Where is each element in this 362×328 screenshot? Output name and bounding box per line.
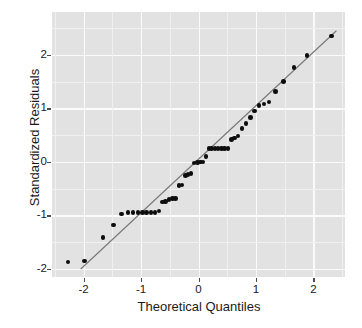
x-tick-label: -1 [121, 283, 161, 295]
data-point [281, 79, 286, 84]
data-point [257, 103, 262, 108]
x-tick-mark [313, 278, 314, 282]
data-point [248, 115, 253, 120]
y-tick-label: -2 [7, 262, 47, 274]
x-tick-label: 2 [293, 283, 333, 295]
y-tick-mark [47, 108, 51, 109]
x-tick-label: 0 [179, 283, 219, 295]
data-point [204, 154, 209, 159]
y-tick-mark [47, 162, 51, 163]
data-point [292, 65, 297, 70]
data-point [173, 196, 178, 201]
y-tick-label: -1 [7, 208, 47, 220]
x-tick-mark [84, 278, 85, 282]
data-point [126, 210, 131, 215]
x-tick-label: 1 [236, 283, 276, 295]
x-tick-mark [199, 278, 200, 282]
data-point [305, 53, 310, 58]
data-point [226, 146, 231, 151]
plot-panel [52, 12, 345, 277]
data-point [111, 223, 116, 228]
x-tick-label: -2 [64, 283, 104, 295]
data-point [273, 89, 278, 94]
x-tick-mark [256, 278, 257, 282]
y-tick-mark [47, 55, 51, 56]
reference-line [52, 12, 345, 277]
data-point [101, 235, 106, 240]
y-tick-label: 0 [7, 155, 47, 167]
data-point [119, 212, 124, 217]
y-tick-label: 1 [7, 101, 47, 113]
y-tick-label: 2 [7, 48, 47, 60]
y-tick-mark [47, 215, 51, 216]
y-tick-mark [47, 269, 51, 270]
x-tick-mark [141, 278, 142, 282]
x-axis-title: Theoretical Quantiles [52, 299, 346, 314]
data-point [329, 34, 334, 39]
data-point [252, 109, 257, 114]
data-point [244, 121, 249, 126]
qq-plot-figure: Standardized Residuals Theoretical Quant… [0, 0, 362, 328]
